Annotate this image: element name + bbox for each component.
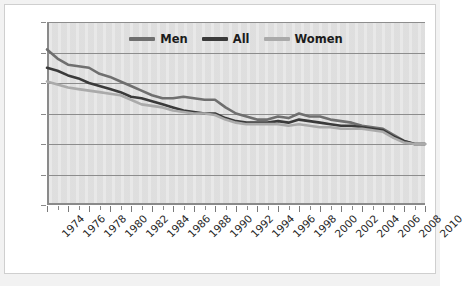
x-tick-1979 [100,206,101,210]
y-tick-mark-60 [41,22,46,23]
x-tick-2006 [383,206,384,212]
x-tick-1983 [142,206,143,210]
x-tick-1984 [152,206,153,212]
x-tick-1999 [310,206,311,210]
x-tick-1992 [236,206,237,212]
x-tick-1987 [184,206,185,210]
x-tick-label-2004: 2004 [375,213,402,240]
x-tick-2007 [394,206,395,210]
x-tick-1993 [247,206,248,210]
x-tick-label-1982: 1982 [144,213,171,240]
x-tick-2005 [373,206,374,210]
x-tick-label-1988: 1988 [207,213,234,240]
x-tick-2004 [362,206,363,212]
x-tick-1975 [58,206,59,210]
plot-wrapper: 0102030405060 19741976197819801982198419… [47,22,425,205]
y-tick-mark-20 [41,144,46,145]
y-tick-mark-0 [41,205,46,206]
x-tick-2010 [425,206,426,212]
x-tick-2009 [415,206,416,210]
x-tick-label-1996: 1996 [291,213,318,240]
y-tick-mark-50 [41,53,46,54]
y-tick-mark-10 [41,175,46,176]
x-tick-2000 [320,206,321,212]
x-tick-label-2010: 2010 [438,213,465,240]
x-tick-label-1984: 1984 [165,213,192,240]
x-tick-1980 [110,206,111,212]
x-tick-1977 [79,206,80,210]
x-tick-label-1994: 1994 [270,213,297,240]
y-tick-mark-30 [41,114,46,115]
x-tick-1988 [194,206,195,212]
x-tick-2008 [404,206,405,212]
series-lines [47,22,425,205]
x-tick-1989 [205,206,206,210]
x-tick-label-1998: 1998 [312,213,339,240]
y-tick-mark-40 [41,83,46,84]
x-tick-label-1974: 1974 [60,213,87,240]
x-tick-1996 [278,206,279,212]
x-tick-label-2000: 2000 [333,213,360,240]
x-tick-label-1990: 1990 [228,213,255,240]
x-tick-label-1992: 1992 [249,213,276,240]
x-tick-label-1976: 1976 [81,213,108,240]
x-tick-1986 [173,206,174,212]
x-tick-2003 [352,206,353,210]
x-tick-label-2002: 2002 [354,213,381,240]
x-tick-1990 [215,206,216,212]
x-tick-1982 [131,206,132,212]
x-tick-label-2008: 2008 [417,213,444,240]
x-tick-1981 [121,206,122,210]
x-tick-2001 [331,206,332,210]
x-tick-label-2006: 2006 [396,213,423,240]
x-tick-label-1980: 1980 [123,213,150,240]
x-tick-1976 [68,206,69,212]
x-tick-2002 [341,206,342,212]
series-line-all [47,68,425,144]
x-tick-label-1978: 1978 [102,213,129,240]
x-tick-1994 [257,206,258,212]
x-tick-1997 [289,206,290,210]
x-tick-1985 [163,206,164,210]
x-tick-1995 [268,206,269,210]
chart-card: 0102030405060 19741976197819801982198419… [4,4,436,274]
x-tick-1991 [226,206,227,210]
x-tick-1998 [299,206,300,212]
x-tick-1974 [47,206,48,212]
x-tick-1978 [89,206,90,212]
x-tick-label-1986: 1986 [186,213,213,240]
